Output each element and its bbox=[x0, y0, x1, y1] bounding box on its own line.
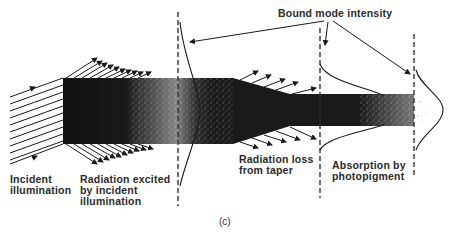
label-incident-illumination: Incident illumination bbox=[10, 174, 71, 196]
label-radiation-excited: Radiation excited by incident illuminati… bbox=[80, 174, 170, 207]
title-arrows bbox=[190, 21, 410, 74]
label-radiation-loss: Radiation loss from taper bbox=[239, 154, 314, 176]
label-absorption: Absorption by photopigment bbox=[332, 160, 406, 182]
radiation-excited-bottom-rays bbox=[66, 144, 153, 164]
radiation-excited-top-rays bbox=[66, 58, 151, 78]
diagram-title: Bound mode intensity bbox=[278, 8, 392, 19]
panel-label: (c) bbox=[219, 216, 231, 227]
waveguide-diagram bbox=[0, 0, 452, 232]
waveguide-body bbox=[63, 78, 427, 144]
incident-rays bbox=[10, 78, 63, 164]
